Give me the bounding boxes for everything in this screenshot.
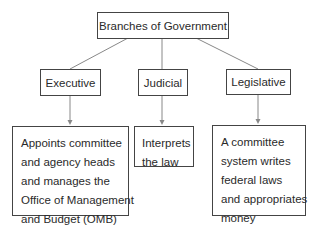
branch-node-legislative: Legislative <box>226 69 291 95</box>
description-line: and manages the <box>21 172 128 191</box>
description-line: money <box>221 209 305 228</box>
description-line: Interprets <box>142 134 193 153</box>
branch-label-executive: Executive <box>41 76 100 89</box>
description-line: federal laws <box>221 171 305 190</box>
description-line: Appoints committee <box>21 134 128 153</box>
description-legislative: A committee system writes federal laws a… <box>212 125 306 216</box>
description-line: and agency heads <box>21 153 128 172</box>
description-line: and appropriates <box>221 190 305 209</box>
branch-node-judicial: Judicial <box>138 69 188 96</box>
description-executive: Appoints committee and agency heads and … <box>12 126 129 216</box>
root-node-label: Branches of Government <box>98 19 228 32</box>
branch-node-executive: Executive <box>40 69 101 96</box>
description-line: the law <box>142 153 193 172</box>
description-line: A committee <box>221 133 305 152</box>
branch-label-judicial: Judicial <box>139 76 187 89</box>
description-line: and Budget (OMB) <box>21 210 128 229</box>
description-judicial: Interprets the law <box>134 126 194 167</box>
root-node-branches-of-government: Branches of Government <box>97 12 229 39</box>
description-line: system writes <box>221 152 305 171</box>
description-line: Office of Management <box>21 191 128 210</box>
branch-label-legislative: Legislative <box>227 76 290 89</box>
